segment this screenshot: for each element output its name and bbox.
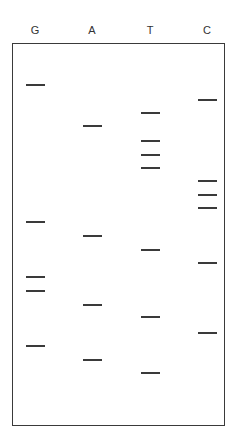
lane-label-c: C: [197, 23, 217, 37]
lane-label-g: G: [25, 23, 45, 37]
band-t: [141, 167, 160, 169]
band-a: [83, 235, 102, 237]
band-g: [26, 276, 45, 278]
lane-label-a: A: [82, 23, 102, 37]
band-c: [198, 332, 217, 334]
band-a: [83, 359, 102, 361]
band-t: [141, 154, 160, 156]
band-t: [141, 112, 160, 114]
band-c: [198, 194, 217, 196]
band-c: [198, 262, 217, 264]
band-a: [83, 125, 102, 127]
band-g: [26, 290, 45, 292]
band-c: [198, 99, 217, 101]
band-t: [141, 372, 160, 374]
band-g: [26, 345, 45, 347]
band-t: [141, 316, 160, 318]
band-c: [198, 207, 217, 209]
band-g: [26, 221, 45, 223]
band-c: [198, 180, 217, 182]
band-a: [83, 304, 102, 306]
band-t: [141, 249, 160, 251]
band-g: [26, 84, 45, 86]
lane-label-t: T: [140, 23, 160, 37]
band-t: [141, 140, 160, 142]
gel-frame: [12, 43, 225, 426]
